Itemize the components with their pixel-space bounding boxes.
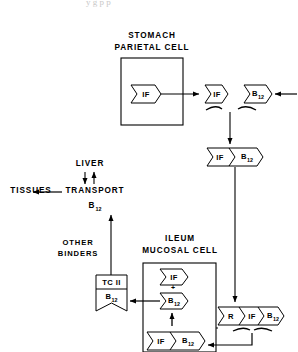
token-b12-r-complex-subscript: 12 <box>273 316 279 322</box>
brace-r-cleavage-right <box>254 328 272 331</box>
brace-if-b12-binding-right <box>238 107 256 110</box>
liver-label: LIVER <box>63 159 117 169</box>
stomach-cell-label-line2: PARIETAL CELL <box>105 43 199 53</box>
token-if-ileum: IF <box>164 273 184 282</box>
token-b12-complex: B12 <box>237 152 257 163</box>
brace-if-b12-binding <box>206 107 222 110</box>
token-if-r-complex: IF <box>244 312 260 321</box>
token-b12-ileum-bottom: B12 <box>178 336 198 347</box>
token-b12-ileum-subscript: 12 <box>174 301 180 307</box>
token-if-lumen: IF <box>209 90 225 99</box>
token-if-ileum-bottom: IF <box>153 337 169 346</box>
token-if-complex: IF <box>212 153 228 162</box>
ileum-cell-label-line2: MUCOSAL CELL <box>131 246 229 256</box>
token-b12-complex-subscript: 12 <box>247 157 253 163</box>
other-binders-label-line2: BINDERS <box>46 250 110 259</box>
token-tc2: TC II <box>96 278 127 287</box>
plus-sign-ileum: + <box>171 284 175 291</box>
token-b12-tc2: B12 <box>96 292 127 303</box>
token-b12-lumen: B12 <box>248 89 268 100</box>
brace-r-cleavage-left <box>233 328 250 331</box>
diagram-canvas <box>0 0 298 352</box>
other-binders-label-line1: OTHER <box>52 239 104 248</box>
token-b12-ileum: B12 <box>164 296 184 307</box>
connector-r-complex-to-ileum <box>208 333 252 345</box>
transport-b12-label: B12 <box>62 201 128 212</box>
tissues-label: TISSUES <box>0 186 62 196</box>
ileum-cell-label-line1: ILEUM <box>131 234 229 244</box>
token-if-stomach: IF <box>136 90 156 99</box>
token-b12-ileum-bottom-subscript: 12 <box>188 341 194 347</box>
token-r: R <box>224 312 238 321</box>
stomach-cell-label-line1: STOMACH <box>105 31 199 41</box>
token-b12-r-complex: B12 <box>263 311 283 322</box>
b12-absorption-diagram: y g p p <box>0 0 298 352</box>
transport-label: TRANSPORT <box>62 186 128 196</box>
token-b12-lumen-subscript: 12 <box>258 94 264 100</box>
token-b12-tc2-subscript: 12 <box>111 297 117 303</box>
transport-b12-subscript: 12 <box>95 206 101 212</box>
